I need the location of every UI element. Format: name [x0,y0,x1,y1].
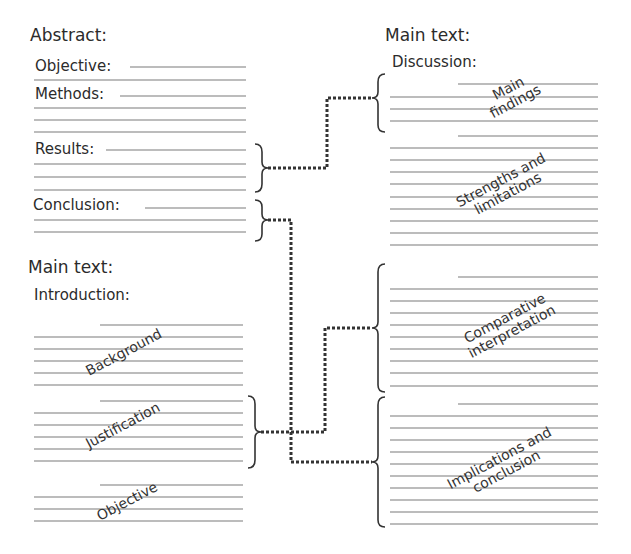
abstract-objective-label: Objective: [35,59,111,74]
abstract-conclusion-label: Conclusion: [33,198,120,213]
braces [248,74,385,527]
connector-conclusion-to-implications [268,220,372,462]
main-findings-brace [372,74,385,132]
discussion-label: Discussion: [392,55,477,70]
abstract-methods-label: Methods: [35,87,104,102]
connectors [261,98,372,462]
justification-brace [248,396,261,468]
implications-brace [372,397,385,527]
main-text-left-title: Main text: [28,259,113,276]
conclusion-brace [255,200,268,241]
connector-justification-to-comparative [261,328,372,432]
abstract-results-label: Results: [35,142,94,157]
connector-results-to-main-findings [268,98,372,168]
main-text-right-title: Main text: [385,27,470,44]
results-brace [255,144,268,192]
abstract-title: Abstract: [30,27,107,44]
comparative-brace [372,264,385,392]
introduction-label: Introduction: [34,288,130,303]
